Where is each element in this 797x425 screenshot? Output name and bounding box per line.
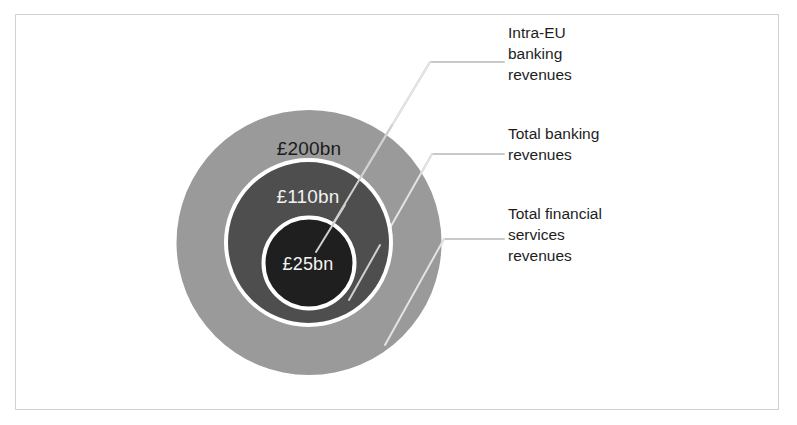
concentric-circles-chart: £200bn £110bn £25bn — [0, 0, 797, 425]
callout-label-total-financial: Total financial services revenues — [508, 203, 602, 266]
value-label-inner: £25bn — [282, 254, 333, 274]
value-label-outer: £200bn — [277, 138, 342, 159]
value-label-middle: £110bn — [276, 186, 339, 207]
figure-root: £200bn £110bn £25bn Intra-EU banking rev… — [0, 0, 797, 425]
callout-label-total-banking: Total banking revenues — [508, 123, 599, 165]
callout-label-intra-eu: Intra-EU banking revenues — [508, 22, 572, 85]
